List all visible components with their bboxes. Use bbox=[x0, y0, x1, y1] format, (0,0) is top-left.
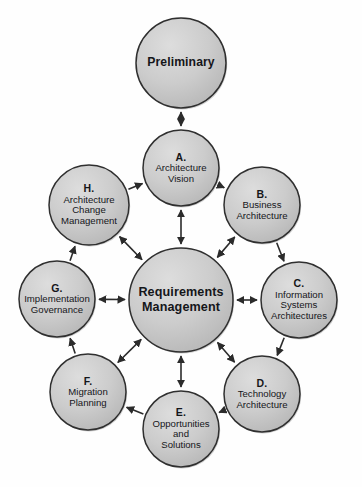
edge-b-to-center bbox=[217, 237, 234, 257]
adm-diagram-canvas bbox=[0, 0, 362, 487]
edge-f-to-g bbox=[70, 338, 75, 353]
node-layer bbox=[19, 18, 338, 468]
adm-cycle-diagram: PreliminaryRequirementsManagementA.Archi… bbox=[0, 0, 362, 487]
node-circle-phase-c[interactable] bbox=[261, 262, 337, 338]
node-circle-phase-h[interactable] bbox=[49, 165, 129, 245]
edge-g-to-h bbox=[70, 246, 75, 260]
edge-e-to-f bbox=[127, 407, 144, 414]
node-circle-phase-a[interactable] bbox=[143, 130, 219, 206]
edge-d-to-e bbox=[219, 410, 225, 412]
node-circle-phase-e[interactable] bbox=[143, 391, 219, 467]
edge-h-to-a bbox=[128, 183, 142, 189]
edge-h-to-center bbox=[120, 237, 142, 260]
node-circle-phase-d[interactable] bbox=[224, 356, 300, 432]
node-circle-phase-b[interactable] bbox=[224, 167, 300, 243]
edge-a-to-b bbox=[218, 185, 224, 188]
edge-c-to-d bbox=[277, 338, 284, 356]
edge-b-to-c bbox=[277, 243, 284, 262]
node-circle-preliminary[interactable] bbox=[136, 18, 226, 108]
edge-d-to-center bbox=[218, 342, 235, 362]
node-circle-phase-f[interactable] bbox=[50, 354, 126, 430]
node-circle-phase-g[interactable] bbox=[19, 261, 95, 337]
node-circle-requirements-management[interactable] bbox=[129, 248, 233, 352]
edge-f-to-center bbox=[118, 339, 141, 362]
